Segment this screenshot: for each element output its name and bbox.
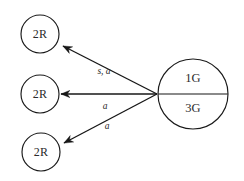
source-node-lower-label: 3G [185, 101, 201, 115]
target-top-label: 2R [33, 27, 47, 41]
node-target-top[interactable]: 2R [21, 15, 59, 53]
edge-bottom: a [64, 94, 157, 143]
edge-group: s, a a a [61, 46, 157, 143]
target-middle-label: 2R [33, 87, 47, 101]
diagram-canvas: s, a a a 1G 3G 2R 2R [0, 0, 244, 181]
edge-middle-label: a [103, 101, 108, 111]
edge-bottom-label: a [105, 121, 110, 131]
graph-diagram: s, a a a 1G 3G 2R 2R [0, 0, 244, 181]
node-target-bottom[interactable]: 2R [22, 133, 60, 171]
edge-bottom-line [64, 94, 157, 143]
edge-top: s, a [63, 46, 157, 94]
source-node-upper-label: 1G [185, 71, 201, 85]
edge-middle: a [61, 94, 157, 111]
target-bottom-label: 2R [34, 145, 48, 159]
node-source-compound[interactable]: 1G 3G [158, 59, 228, 129]
node-target-middle[interactable]: 2R [21, 75, 59, 113]
edge-top-label: s, a [97, 66, 110, 76]
